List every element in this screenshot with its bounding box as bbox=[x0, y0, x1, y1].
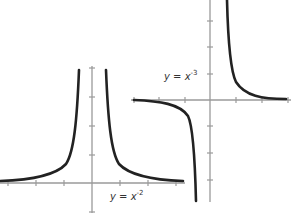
graph-inverse-square bbox=[0, 66, 185, 213]
curve-right-branch bbox=[106, 70, 183, 181]
label-base: y = x bbox=[164, 71, 191, 82]
label-inverse-cube: y = x-3 bbox=[164, 70, 198, 82]
label-inverse-square: y = x-2 bbox=[110, 190, 144, 202]
label-exponent: -3 bbox=[191, 69, 198, 77]
graph-inverse-cube bbox=[131, 0, 291, 202]
curve-positive-branch bbox=[227, 0, 286, 99]
curve-left-branch bbox=[0, 70, 79, 181]
label-base: y = x bbox=[110, 191, 137, 202]
curve-negative-branch bbox=[134, 100, 196, 201]
graphs-canvas bbox=[0, 0, 297, 221]
label-exponent: -2 bbox=[137, 189, 144, 197]
